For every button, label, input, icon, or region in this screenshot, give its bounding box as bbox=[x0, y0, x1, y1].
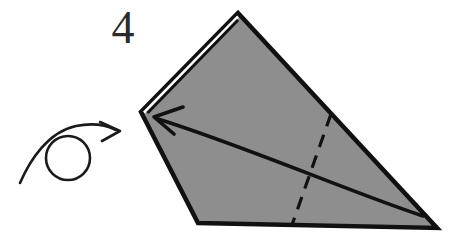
turn-over-circle-icon bbox=[46, 136, 90, 180]
diagram-canvas: 4 bbox=[0, 0, 449, 244]
origami-diagram bbox=[0, 0, 449, 244]
step-number-label: 4 bbox=[100, 2, 146, 54]
folded-paper-shape bbox=[141, 13, 437, 228]
turn-over-arrow-tail-icon bbox=[20, 124, 116, 183]
